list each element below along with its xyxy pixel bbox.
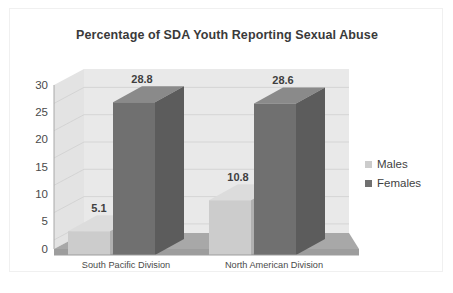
left-side-wall bbox=[54, 69, 84, 249]
data-label-south-pacific-males: 5.1 bbox=[79, 203, 119, 214]
y-tick-0: 0 bbox=[18, 244, 48, 256]
bar-front-face bbox=[68, 231, 110, 255]
x-category-south-pacific: South Pacific Division bbox=[61, 261, 191, 270]
chart-legend: Males Females bbox=[365, 155, 440, 193]
y-tick-25: 25 bbox=[18, 107, 48, 119]
chart-svg bbox=[10, 9, 444, 273]
bar-front-face bbox=[209, 200, 251, 255]
bar-south-pacific-females[interactable] bbox=[113, 86, 184, 255]
bar-front-face bbox=[113, 102, 155, 255]
y-tick-10: 10 bbox=[18, 189, 48, 201]
bar-front-face bbox=[254, 103, 296, 255]
legend-item-males[interactable]: Males bbox=[365, 155, 440, 174]
y-tick-20: 20 bbox=[18, 134, 48, 146]
plot-area-3d: 30 25 20 15 10 5 0 5.1 28.8 10.8 28.6 So… bbox=[10, 9, 444, 273]
y-tick-5: 5 bbox=[18, 216, 48, 228]
data-label-north-american-males: 10.8 bbox=[218, 172, 258, 183]
legend-label-females: Females bbox=[377, 178, 421, 190]
legend-item-females[interactable]: Females bbox=[365, 174, 440, 193]
x-category-north-american: North American Division bbox=[204, 261, 344, 270]
data-label-north-american-females: 28.6 bbox=[263, 75, 303, 86]
legend-label-males: Males bbox=[377, 159, 408, 171]
bar-side-face bbox=[296, 87, 325, 255]
bar-side-face bbox=[155, 86, 184, 255]
y-tick-30: 30 bbox=[18, 80, 48, 92]
legend-swatch-males-icon bbox=[365, 161, 372, 168]
y-tick-15: 15 bbox=[18, 162, 48, 174]
bar-north-american-females[interactable] bbox=[254, 87, 325, 255]
legend-swatch-females-icon bbox=[365, 180, 372, 187]
data-label-south-pacific-females: 28.8 bbox=[122, 74, 162, 85]
chart-container: Percentage of SDA Youth Reporting Sexual… bbox=[9, 8, 443, 272]
